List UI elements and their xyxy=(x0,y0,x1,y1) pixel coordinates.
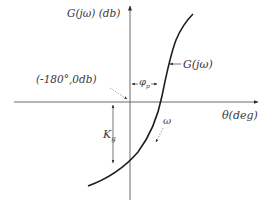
gain-margin-label: Kg xyxy=(102,128,116,143)
y-axis-label: G(jω) (db) xyxy=(67,7,120,19)
x-axis-label: θ(deg) xyxy=(222,109,258,122)
critical-point-label: (-180°,0db) xyxy=(36,73,97,85)
frequency-direction-arrow xyxy=(156,128,163,142)
curve-label: G(jω) xyxy=(183,58,213,71)
frequency-label: ω xyxy=(163,115,171,126)
critical-point-leader xyxy=(110,88,127,99)
frequency-response-curve xyxy=(88,14,193,186)
nichols-diagram: Kg φp G(jω) (-180°,0db) G(jω) (db) θ(deg… xyxy=(0,0,268,212)
